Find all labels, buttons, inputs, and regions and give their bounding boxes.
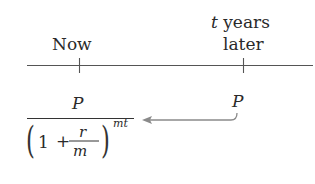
left-paren: ( — [26, 120, 35, 160]
label-t-years: t years — [211, 14, 270, 31]
label-years: years — [218, 12, 270, 32]
label-now: Now — [52, 36, 92, 53]
var-t: t — [211, 12, 218, 32]
pv-one: 1 — [38, 134, 49, 151]
pv-numerator: P — [72, 95, 83, 112]
pv-plus: + — [56, 133, 70, 150]
label-later: later — [223, 36, 264, 53]
exponent-mt: mt — [113, 118, 128, 129]
future-value-p: P — [232, 93, 243, 110]
rate-r: r — [79, 124, 86, 141]
rate-m: m — [73, 143, 87, 160]
right-paren: ) — [101, 120, 110, 160]
discount-arrow — [148, 113, 237, 120]
